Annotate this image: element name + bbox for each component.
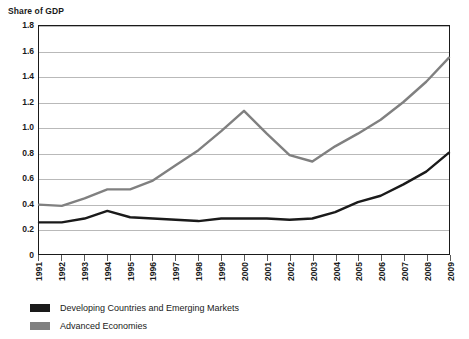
x-axis-tick-label: 1999 (217, 262, 227, 281)
x-axis-tick (358, 255, 359, 261)
x-axis-tick (404, 255, 405, 261)
line-chart-svg (39, 26, 449, 254)
x-axis-tick (267, 255, 268, 261)
series-line (39, 58, 449, 206)
y-axis-tick-label: 0.4 (22, 199, 34, 209)
x-axis-tick-label: 2002 (286, 262, 296, 281)
x-axis-tick (130, 255, 131, 261)
x-axis-tick (313, 255, 314, 261)
x-axis-tick (175, 255, 176, 261)
x-axis-tick-label: 2006 (377, 262, 387, 281)
y-axis-tick-label: 0.2 (22, 224, 34, 234)
x-axis-tick-label: 2005 (354, 262, 364, 281)
x-axis-tick (381, 255, 382, 261)
x-axis-tick-label: 2000 (240, 262, 250, 281)
plot-area (38, 25, 450, 255)
x-axis-tick-label: 1992 (57, 262, 67, 281)
x-axis-tick (427, 255, 428, 261)
page-title: Share of GDP (8, 6, 64, 16)
x-axis-tick-label: 1991 (34, 262, 44, 281)
x-axis-tick (221, 255, 222, 261)
x-axis-tick-label: 1995 (126, 262, 136, 281)
x-axis-tick (450, 255, 451, 261)
y-axis-tick-label: 0.8 (22, 148, 34, 158)
x-axis-tick (336, 255, 337, 261)
x-axis-tick-label: 2003 (309, 262, 319, 281)
y-axis-tick-label: 0.6 (22, 173, 34, 183)
x-axis-labels: 1991199219931994199519961997199819992000… (38, 262, 450, 300)
chart-legend: Developing Countries and Emerging Market… (30, 300, 450, 336)
x-axis-tick-label: 1996 (148, 262, 158, 281)
y-axis-tick-label: 1.2 (22, 97, 34, 107)
x-axis-tick (107, 255, 108, 261)
series-layer (39, 26, 449, 254)
x-axis-tick (38, 255, 39, 261)
y-axis-tick-label: 0 (29, 250, 34, 260)
x-axis-tick (84, 255, 85, 261)
x-axis-tick-label: 2008 (423, 262, 433, 281)
x-axis-tick (152, 255, 153, 261)
x-axis-tick-label: 2007 (400, 262, 410, 281)
y-axis-tick-label: 1.4 (22, 71, 34, 81)
legend-swatch (30, 322, 50, 330)
chart-page: Share of GDP 00.20.40.60.81.01.21.41.61.… (0, 0, 469, 339)
y-axis-tick-label: 1.0 (22, 122, 34, 132)
x-axis-tick-label: 1998 (194, 262, 204, 281)
x-axis-tick (290, 255, 291, 261)
legend-label: Developing Countries and Emerging Market… (60, 303, 239, 313)
x-axis-tick-label: 1994 (103, 262, 113, 281)
legend-item: Advanced Economies (30, 318, 450, 333)
x-axis-tick (244, 255, 245, 261)
x-axis-tick (61, 255, 62, 261)
legend-item: Developing Countries and Emerging Market… (30, 300, 450, 315)
x-axis-tick-label: 2001 (263, 262, 273, 281)
x-axis-tick-label: 2004 (332, 262, 342, 281)
x-axis-tick (198, 255, 199, 261)
y-axis-labels: 00.20.40.60.81.01.21.41.61.8 (0, 25, 34, 255)
x-axis-tick-label: 1997 (171, 262, 181, 281)
legend-label: Advanced Economies (60, 321, 147, 331)
x-axis-tick-label: 2009 (446, 262, 456, 281)
x-axis-tick-label: 1993 (80, 262, 90, 281)
legend-swatch (30, 304, 50, 312)
y-axis-tick-label: 1.8 (22, 20, 34, 30)
series-line (39, 153, 449, 223)
y-axis-tick-label: 1.6 (22, 46, 34, 56)
